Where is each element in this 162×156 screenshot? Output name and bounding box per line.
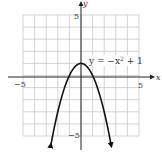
x-min-tick-label: −5 [14, 80, 26, 89]
y-axis-label: y [82, 0, 88, 8]
x-axis-arrow-icon [150, 75, 155, 80]
equation-main: y = −x [88, 56, 120, 66]
equation-tail: + 1 [124, 56, 143, 66]
parabola-graph: x y −5 5 5 −5 y = −x2 + 1 [0, 0, 162, 156]
x-max-tick-label: 5 [138, 81, 143, 90]
x-axis-label: x [156, 73, 161, 82]
y-max-tick-label: 5 [74, 12, 79, 21]
y-min-tick-label: −5 [68, 131, 80, 140]
equation-label: y = −x2 + 1 [88, 55, 143, 67]
